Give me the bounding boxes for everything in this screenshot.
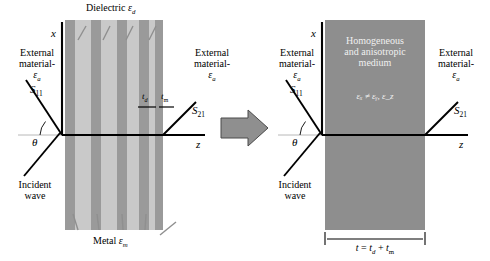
dielectric-pointer: [149, 26, 156, 40]
right-theta-label: θ: [292, 137, 297, 149]
s21-subscript: 21: [460, 110, 467, 119]
metal-label-text: Metal: [93, 235, 119, 246]
left-external-material-right: External material- εa: [180, 48, 244, 82]
right-x-axis-label: x: [311, 28, 316, 40]
metal-pointer: [97, 214, 99, 230]
transition-arrow-icon: [221, 110, 268, 146]
equals-sign: =: [359, 242, 370, 253]
left-incident-ray: [24, 133, 60, 176]
tm-subscript: m: [164, 97, 169, 103]
right-incident-ray: [284, 133, 320, 176]
right-s21-label: S21: [454, 105, 467, 119]
metal-pointer: [160, 222, 176, 235]
dielectric-pointer: [103, 26, 110, 40]
external-epsilon-subscript: a: [456, 75, 459, 82]
incident-line2: wave: [262, 191, 328, 202]
right-incident-wave-label: Incident wave: [262, 180, 328, 202]
medium-line3: medium: [327, 58, 423, 69]
external-epsilon-subscript: a: [297, 75, 300, 82]
right-external-material-left: External material- εa: [266, 48, 328, 82]
metal-label: Metal εm: [93, 236, 128, 248]
incident-line2: wave: [2, 191, 68, 202]
dielectric-epsilon-subscript: d: [132, 8, 135, 15]
left-theta-label: θ: [32, 137, 37, 149]
dielectric-pointer: [78, 26, 86, 40]
tm-label: tm: [161, 92, 168, 103]
left-s21-label: S21: [192, 105, 205, 119]
external-epsilon-subscript: a: [212, 75, 215, 82]
td-label: td: [142, 92, 148, 103]
homogeneous-medium-label: Homogeneous and anisotropic medium: [327, 36, 423, 68]
left-x-axis-label: x: [51, 28, 56, 40]
dielectric-label-text: Dielectric: [86, 2, 128, 13]
metal-epsilon-subscript: m: [123, 241, 128, 248]
external-epsilon-subscript: a: [37, 75, 40, 82]
anisotropy-relation: εₓ ≠ εᵧ, ε_z: [327, 92, 423, 102]
right-theta-arc: [300, 122, 306, 136]
tm-subscript: m: [389, 248, 394, 255]
medium-line2: and anisotropic: [327, 47, 423, 58]
left-z-axis-label: z: [196, 139, 200, 151]
td-subscript: d: [145, 97, 148, 103]
left-incident-wave-label: Incident wave: [2, 180, 68, 202]
s11-subscript: 11: [36, 89, 43, 98]
total-thickness-label: t = td + tm: [325, 243, 425, 255]
metal-pointer: [122, 214, 123, 230]
left-s11-label: S11: [30, 84, 43, 98]
left-theta-arc: [40, 122, 46, 136]
right-external-material-right: External material- εa: [424, 48, 488, 82]
dielectric-pointer: [126, 26, 133, 40]
s21-subscript: 21: [198, 110, 205, 119]
right-z-axis-label: z: [459, 139, 463, 151]
s11-subscript: 11: [296, 89, 303, 98]
dielectric-label: Dielectric εd: [86, 3, 135, 15]
left-external-material-left: External material- εa: [6, 48, 68, 82]
right-s11-label: S11: [290, 84, 303, 98]
metal-pointer: [73, 214, 78, 230]
figure-canvas: x z Dielectric εd Metal εm External mate…: [0, 0, 490, 261]
plus-sign: +: [375, 242, 386, 253]
metal-pointer: [145, 214, 146, 230]
